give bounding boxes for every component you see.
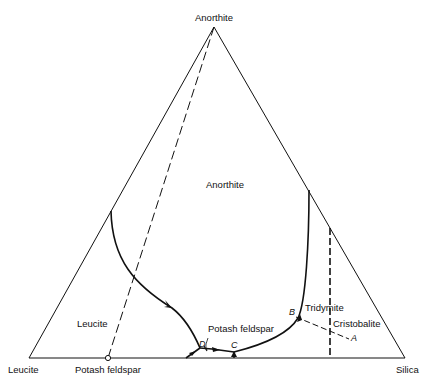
field-label-tridymite: Tridymite: [305, 302, 344, 313]
base-label-potash-feldspar: Potash feldspar: [75, 364, 141, 375]
vertex-label-silica: Silica: [396, 364, 419, 375]
leucite-anorthite-boundary: [111, 211, 200, 348]
point-label-a: A: [350, 333, 357, 343]
phase-diagram: Anorthite Leucite Silica Potash feldspar…: [0, 0, 437, 387]
potash-feldspar-point: [105, 355, 110, 360]
vertex-label-anorthite: Anorthite: [195, 12, 233, 23]
point-label-b: B: [289, 307, 295, 317]
triangle-outline: [29, 27, 405, 358]
field-label-potash-feldspar: Potash feldspar: [208, 323, 274, 334]
field-label-anorthite: Anorthite: [206, 179, 244, 190]
anorthite-potash-feldspar-join: [108, 27, 214, 358]
vertex-label-leucite: Leucite: [8, 364, 39, 375]
field-label-cristobalite: Cristobalite: [333, 318, 381, 329]
point-label-c: C: [231, 340, 238, 350]
point-label-d: D: [199, 339, 206, 349]
left-edge: [29, 27, 214, 358]
field-label-leucite: Leucite: [77, 318, 108, 329]
